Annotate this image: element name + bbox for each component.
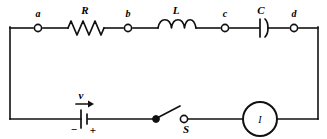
switch-blade-icon[interactable] bbox=[157, 106, 180, 118]
node-b-label: b bbox=[126, 8, 131, 19]
circuit-wires bbox=[10, 27, 318, 119]
capacitor-label: C bbox=[257, 4, 265, 16]
voltage-arrow-icon bbox=[76, 101, 94, 108]
resistor-label: R bbox=[80, 4, 88, 16]
node-b-terminal bbox=[124, 24, 131, 31]
capacitor-plate-curved-icon bbox=[265, 19, 268, 37]
resistor-symbol bbox=[68, 21, 104, 35]
source-plus-sign: + bbox=[90, 124, 96, 136]
circuit-diagram: R L C a b c d − + bbox=[0, 0, 327, 139]
resistor-zigzag-icon bbox=[68, 21, 104, 35]
node-a-label: a bbox=[36, 8, 41, 19]
switch-symbol[interactable] bbox=[153, 106, 188, 123]
node-c-label: c bbox=[223, 8, 228, 19]
source-voltage-label: v bbox=[79, 89, 84, 101]
inductor-label: L bbox=[172, 4, 180, 16]
switch-contact-terminal[interactable] bbox=[180, 115, 187, 122]
voltage-arrow-head bbox=[88, 101, 94, 108]
ammeter-label: I bbox=[257, 114, 262, 125]
inductor-coil-icon bbox=[158, 20, 196, 28]
inductor-symbol bbox=[158, 20, 196, 28]
switch-label: S bbox=[183, 123, 189, 135]
source-minus-sign: − bbox=[71, 123, 77, 135]
node-d-label: d bbox=[292, 8, 298, 19]
capacitor-symbol bbox=[260, 19, 268, 37]
voltage-source-symbol bbox=[81, 110, 87, 128]
node-a-terminal bbox=[34, 24, 41, 31]
node-d-terminal bbox=[290, 24, 297, 31]
node-c-terminal bbox=[221, 24, 228, 31]
ammeter-symbol: I bbox=[243, 102, 277, 136]
